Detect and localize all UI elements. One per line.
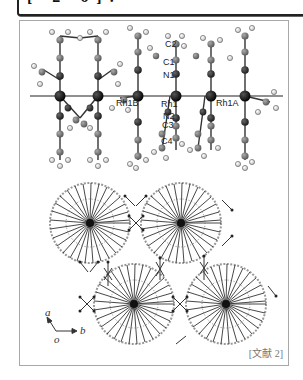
- rh-chain-structure: [30, 25, 283, 170]
- atom-label-n1: N1: [163, 71, 175, 80]
- axis-label-a: a: [45, 307, 51, 318]
- atom-label-rh1: Rh1: [161, 100, 178, 109]
- crystal-axes-indicator: [47, 317, 77, 334]
- citation-label: [文献 2]: [249, 345, 283, 360]
- axis-label-origin: o: [54, 334, 60, 345]
- axis-label-b: b: [80, 325, 86, 336]
- crystal-packing-diagram: [50, 183, 278, 344]
- atom-label-rh1a: Rh1A: [216, 99, 239, 108]
- crystal-structure-figure: [0, 0, 303, 380]
- atom-label-c1: C1: [163, 58, 175, 67]
- atom-label-c4: C4: [161, 137, 173, 146]
- atom-label-c3: C3: [162, 121, 174, 130]
- atom-label-rh1b: Rh1B: [116, 99, 139, 108]
- atom-label-c2: C2: [165, 40, 177, 49]
